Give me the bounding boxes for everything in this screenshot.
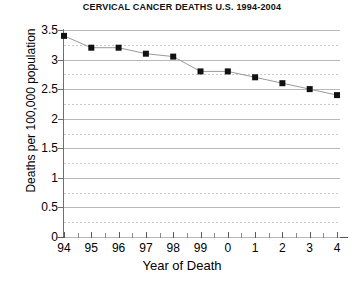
x-axis-tick-mark: [173, 232, 174, 238]
x-axis-minor-tick-mark: [241, 233, 242, 238]
x-axis-tick-mark: [201, 232, 202, 238]
data-series-cervical-cancer-deaths: [64, 30, 340, 237]
data-point-marker: [334, 92, 340, 98]
x-axis-tick-mark: [282, 232, 283, 238]
x-axis-minor-tick-mark: [269, 233, 270, 238]
data-point-marker: [252, 74, 258, 80]
data-point-marker: [198, 68, 204, 74]
y-axis-tick-label: 2.5: [2, 83, 58, 95]
x-axis-minor-tick-mark: [187, 233, 188, 238]
y-axis-tick-label: 1: [2, 172, 58, 184]
x-axis-tick-mark: [64, 232, 65, 238]
x-axis-tick-label: 98: [158, 242, 188, 254]
x-axis-tick-label: 3: [295, 242, 325, 254]
x-axis-tick-mark: [255, 232, 256, 238]
y-axis-tick-label: 3: [2, 54, 58, 66]
data-point-marker: [116, 45, 122, 51]
x-axis-tick-mark: [119, 232, 120, 238]
x-axis-minor-tick-mark: [214, 233, 215, 238]
x-axis-tick-label: 2: [267, 242, 297, 254]
x-axis-minor-tick-mark: [132, 233, 133, 238]
x-axis-tick-mark: [337, 232, 338, 238]
x-axis-tick-label: 99: [186, 242, 216, 254]
x-axis-tick-label: 94: [49, 242, 79, 254]
data-point-marker: [170, 54, 176, 60]
x-axis-tick-label: 0: [213, 242, 243, 254]
plot-area: [64, 30, 340, 237]
x-axis-tick-mark: [91, 232, 92, 238]
x-axis-tick-mark: [228, 232, 229, 238]
series-line: [64, 36, 337, 95]
y-axis-tick-label: 0.5: [2, 201, 58, 213]
x-axis-minor-tick-mark: [78, 233, 79, 238]
y-axis-tick-label: 1.5: [2, 142, 58, 154]
x-axis-minor-tick-mark: [105, 233, 106, 238]
x-axis-tick-label: 95: [76, 242, 106, 254]
data-point-marker: [143, 51, 149, 57]
data-point-marker: [225, 68, 231, 74]
x-axis-tick-label: 1: [240, 242, 270, 254]
data-point-marker: [307, 86, 313, 92]
x-axis-tick-mark: [146, 232, 147, 238]
x-axis-tick-mark: [310, 232, 311, 238]
chart-figure: CERVICAL CANCER DEATHS U.S. 1994-2004 De…: [0, 0, 364, 289]
x-axis-minor-tick-mark: [296, 233, 297, 238]
y-axis-tick-label: 3.5: [2, 24, 58, 36]
x-axis-tick-label: 97: [131, 242, 161, 254]
data-point-marker: [279, 80, 285, 86]
data-point-marker: [61, 33, 67, 39]
x-axis-tick-label: 4: [322, 242, 352, 254]
x-axis-minor-tick-mark: [160, 233, 161, 238]
data-point-marker: [88, 45, 94, 51]
y-axis-tick-label: 2: [2, 113, 58, 125]
x-axis-tick-label: 96: [104, 242, 134, 254]
x-axis-minor-tick-mark: [323, 233, 324, 238]
